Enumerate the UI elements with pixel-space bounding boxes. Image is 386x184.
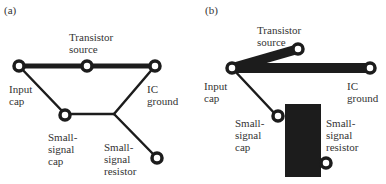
label-ic-ground-a: IC ground (147, 83, 178, 107)
node-small-signal-resistor-a (152, 153, 162, 163)
ground-plane-block (285, 104, 321, 177)
node-input-cap-a (14, 61, 24, 71)
label-small-signal-cap-b: Small- signal cap (235, 117, 264, 153)
node-small-signal-cap-a (60, 110, 70, 120)
panel-a-nodes (14, 61, 162, 163)
label-small-signal-resistor-a: Small- signal resistor (104, 141, 136, 177)
node-ic-ground-a (150, 61, 160, 71)
panel-a-tag: (a) (4, 4, 16, 16)
label-input-cap-a: Input cap (9, 83, 32, 107)
label-ic-ground-b: IC ground (347, 80, 378, 104)
label-input-cap-b: Input cap (204, 80, 227, 104)
label-transistor-source-a: Transistor source (69, 31, 113, 55)
node-small-signal-cap-b (273, 111, 283, 121)
node-input-cap-b (227, 63, 237, 73)
label-small-signal-resistor-b: Small- signal resistor (326, 117, 358, 153)
label-small-signal-cap-a: Small- signal cap (48, 131, 77, 167)
node-small-signal-resistor-b (321, 158, 331, 168)
label-transistor-source-b: Transistor source (257, 24, 301, 48)
panel-b-tag: (b) (205, 4, 218, 16)
node-ic-ground-b (365, 63, 375, 73)
node-transistor-source-a (82, 61, 92, 71)
